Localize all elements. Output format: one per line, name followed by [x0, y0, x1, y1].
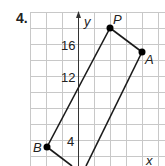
y-tick-12: 12 [61, 70, 75, 85]
y-tick-4: 4 [67, 134, 74, 149]
x-axis-label: x [145, 153, 153, 166]
point-b [44, 144, 51, 151]
label-p: P [113, 12, 122, 27]
y-tick-16: 16 [61, 38, 75, 53]
coordinate-grid: y x 16 12 4 P A B [0, 0, 165, 166]
label-b: B [33, 140, 42, 155]
label-a: A [144, 52, 154, 67]
y-axis-label: y [83, 14, 92, 29]
